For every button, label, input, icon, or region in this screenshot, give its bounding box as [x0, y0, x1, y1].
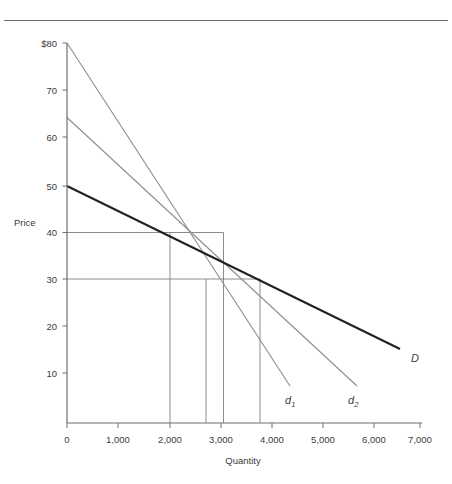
x-tick-label-3000: 3,000 [209, 434, 233, 445]
curve-label-d2-subscript: 2 [353, 400, 359, 409]
y-tick-label-20: 20 [46, 321, 57, 332]
y-axis-ticks [63, 43, 68, 373]
x-tick-label-1000: 1,000 [106, 434, 130, 445]
y-tick-label-40: 40 [46, 227, 57, 238]
y-tick-label-60: 60 [46, 132, 57, 143]
curve-label-d2: d2 [348, 394, 359, 409]
y-tick-label-10: 10 [46, 368, 57, 379]
curve-d2 [67, 118, 357, 387]
guide-lines [67, 233, 260, 424]
y-axis-title: Price [14, 217, 36, 228]
x-tick-label-5000: 5,000 [311, 434, 335, 445]
curve-d1 [67, 43, 290, 386]
curve-D [67, 186, 400, 349]
y-tick-label-80: $80 [41, 38, 57, 49]
price-quantity-chart: $80 70 60 50 40 30 20 10 0 1,000 2,000 3… [0, 0, 452, 484]
curve-label-D: D [411, 352, 419, 364]
x-axis-ticks [67, 423, 420, 428]
x-tick-label-6000: 6,000 [362, 434, 386, 445]
x-tick-label-7000: 7,000 [408, 434, 432, 445]
y-tick-label-30: 30 [46, 274, 57, 285]
axes [67, 43, 422, 423]
x-axis-title: Quantity [225, 455, 261, 466]
x-tick-label-2000: 2,000 [158, 434, 182, 445]
y-tick-label-50: 50 [46, 181, 57, 192]
curve-label-d1: d1 [285, 394, 295, 409]
x-tick-label-4000: 4,000 [260, 434, 284, 445]
demand-curves-figure: $80 70 60 50 40 30 20 10 0 1,000 2,000 3… [0, 0, 452, 484]
x-tick-label-0: 0 [64, 434, 69, 445]
curve-label-d1-subscript: 1 [291, 400, 295, 409]
y-tick-label-70: 70 [46, 85, 57, 96]
